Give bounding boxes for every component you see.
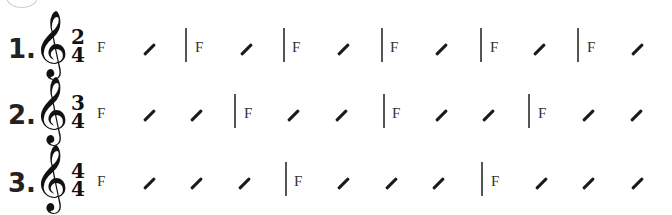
rhythm-slash-icon: [335, 109, 348, 122]
chord-symbol: F: [97, 39, 105, 56]
rhythm-slash-icon: [535, 177, 548, 190]
barline: [285, 162, 287, 196]
chord-symbol: F: [292, 39, 300, 56]
corner-circle-decoration: [6, 0, 38, 8]
barline: [234, 94, 236, 128]
rhythm-slash-icon: [435, 43, 448, 56]
chord-symbol: F: [390, 39, 398, 56]
rhythm-slash-icon: [533, 43, 546, 56]
rhythm-slash-icon: [385, 177, 398, 190]
rhythm-slash-icon: [287, 109, 300, 122]
time-signature: 3 4: [69, 94, 87, 130]
barline: [185, 28, 187, 62]
chord-symbol: F: [392, 105, 400, 122]
exercise-number: 1.: [8, 34, 36, 64]
barline: [577, 28, 579, 62]
rhythm-slash-icon: [582, 109, 595, 122]
exercise-number: 2.: [8, 100, 36, 130]
rhythm-slash-icon: [190, 177, 203, 190]
chord-symbol: F: [587, 39, 595, 56]
chord-symbol: F: [97, 173, 105, 190]
chord-symbol: F: [294, 173, 302, 190]
rhythm-slash-icon: [143, 43, 156, 56]
barline: [381, 28, 383, 62]
chord-symbol: F: [195, 39, 203, 56]
chord-symbol: F: [491, 173, 499, 190]
time-signature: 2 4: [69, 28, 87, 64]
exercise-row-1: 1.𝄞 2 4 FFFFFF: [0, 22, 672, 82]
treble-clef-icon: 𝄞: [34, 14, 68, 72]
rhythm-slash-icon: [630, 109, 643, 122]
rhythm-slash-icon: [240, 43, 253, 56]
barline: [480, 28, 482, 62]
time-signature-bottom: 4: [69, 112, 87, 130]
rhythm-slash-icon: [631, 43, 644, 56]
barline: [283, 28, 285, 62]
chord-symbol: F: [97, 105, 105, 122]
chord-symbol: F: [538, 105, 546, 122]
rhythm-slash-icon: [482, 109, 495, 122]
rhythm-slash-icon: [238, 177, 251, 190]
chord-symbol: F: [490, 39, 498, 56]
rhythm-slash-icon: [435, 109, 448, 122]
exercise-row-2: 2.𝄞 3 4 FFFF: [0, 88, 672, 148]
treble-clef-icon: 𝄞: [34, 148, 68, 206]
exercise-number: 3.: [8, 168, 36, 198]
treble-clef-icon: 𝄞: [34, 80, 68, 138]
exercise-row-3: 3.𝄞 4 4 FFF: [0, 156, 672, 215]
barline: [528, 94, 530, 128]
rhythm-slash-icon: [337, 43, 350, 56]
time-signature: 4 4: [69, 162, 87, 198]
time-signature-bottom: 4: [69, 46, 87, 64]
chord-symbol: F: [244, 105, 252, 122]
rhythm-slash-icon: [190, 109, 203, 122]
barline: [481, 162, 483, 196]
rhythm-slash-icon: [582, 177, 595, 190]
rhythm-slash-icon: [432, 177, 445, 190]
rhythm-slash-icon: [337, 177, 350, 190]
time-signature-bottom: 4: [69, 180, 87, 198]
barline: [383, 94, 385, 128]
rhythm-slash-icon: [143, 177, 156, 190]
rhythm-slash-icon: [143, 109, 156, 122]
rhythm-slash-icon: [631, 177, 644, 190]
